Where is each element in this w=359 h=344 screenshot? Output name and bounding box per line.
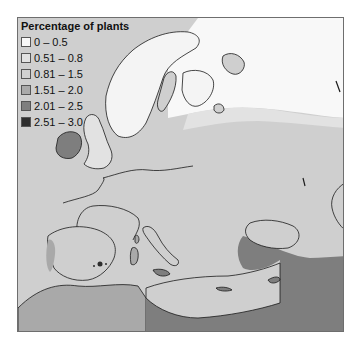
legend-label: 2.51 – 3.0 [34,116,83,128]
region-corsica [135,235,139,243]
legend-swatch [21,53,31,63]
legend-label: 0.81 – 1.5 [34,68,83,80]
legend-item: 0.81 – 1.5 [21,66,129,82]
legend-item: 0.51 – 0.8 [21,50,129,66]
map-frame: Percentage of plants 0 – 0.5 0.51 – 0.8 … [17,17,344,332]
region-sardinia [130,247,138,264]
legend-swatch [21,37,31,47]
legend-swatch [21,101,31,111]
legend-label: 0.51 – 0.8 [34,52,83,64]
legend-item: 0 – 0.5 [21,34,129,50]
legend-label: 0 – 0.5 [34,36,68,48]
legend-swatch [21,85,31,95]
lake-ladoga [214,104,224,113]
region-balearic [98,262,103,267]
legend-item: 2.01 – 2.5 [21,98,129,114]
legend-title: Percentage of plants [21,20,129,33]
legend-swatch [21,117,31,127]
legend: Percentage of plants 0 – 0.5 0.51 – 0.8 … [21,20,129,130]
legend-swatch [21,69,31,79]
legend-label: 2.01 – 2.5 [34,100,83,112]
legend-item: 1.51 – 2.0 [21,82,129,98]
legend-item: 2.51 – 3.0 [21,114,129,130]
legend-label: 1.51 – 2.0 [34,84,83,96]
